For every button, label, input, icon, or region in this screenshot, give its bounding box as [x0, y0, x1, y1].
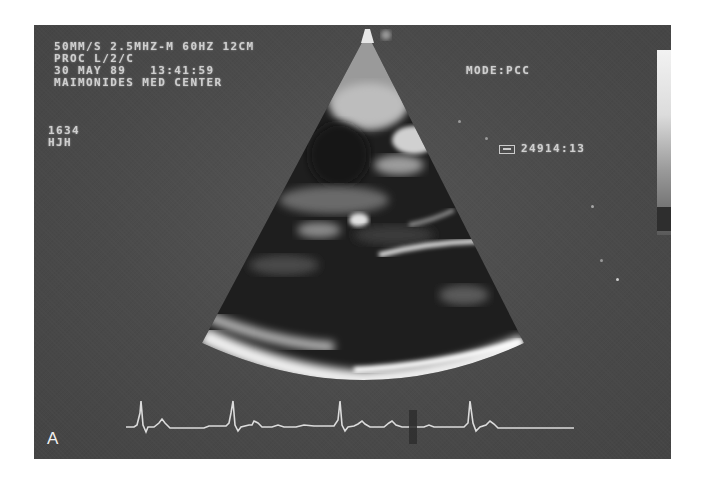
echo-sector-scan [34, 25, 671, 459]
mode-text: MODE:PCC [466, 65, 530, 77]
speckle [600, 259, 603, 262]
speckle [616, 278, 619, 281]
speckle [591, 205, 594, 208]
frame-counter: 24914:13 [499, 143, 585, 155]
scan-parameters-overlay: 50MM/S 2.5MHZ-M 60HZ 12CMPROC L/2/C30 MA… [54, 41, 255, 89]
speckle [458, 120, 461, 123]
panel-label: A [47, 429, 58, 449]
grayscale-bar-dark-marker [657, 207, 671, 231]
frame-counter-value: 24914:13 [521, 143, 585, 155]
id-initials-text: HJH [48, 137, 80, 149]
tape-box-icon [499, 145, 515, 154]
institution-text: MAIMONIDES MED CENTER [54, 77, 255, 89]
speckle [485, 137, 488, 140]
patient-id-overlay: 1634HJH [48, 125, 80, 149]
ultrasound-image: 50MM/S 2.5MHZ-M 60HZ 12CMPROC L/2/C30 MA… [34, 25, 671, 459]
ecg-trace [126, 401, 574, 432]
